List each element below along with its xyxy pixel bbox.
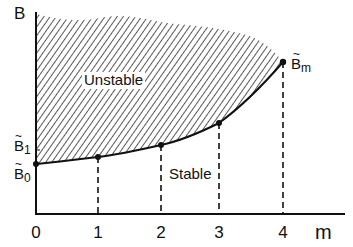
stability-diagram [0,0,353,247]
bm-label: Bm [291,56,311,74]
y-axis-label: B [14,5,25,22]
unstable-label: Unstable [82,72,145,89]
x-axis-label: m [315,222,332,242]
x-tick-1: 1 [93,224,102,241]
unstable-region-hatch [36,14,283,164]
b0-label: B0 [14,166,31,184]
x-tick-2: 2 [156,224,165,241]
x-tick-4: 4 [278,224,287,241]
x-tick-0: 0 [31,224,40,241]
b1-label: B1 [14,138,31,156]
x-tick-3: 3 [214,224,223,241]
stable-label: Stable [167,166,214,183]
